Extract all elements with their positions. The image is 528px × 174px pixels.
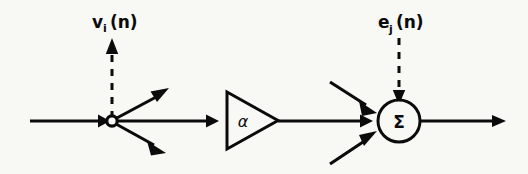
arrowhead-output-right <box>492 115 506 127</box>
edge-error-injection <box>393 38 405 105</box>
edge-sum-in-lower <box>330 131 377 164</box>
arrowhead-branch-right <box>206 115 219 128</box>
signal-flow-diagram: α Σ v i (n) e j (n) <box>0 0 528 174</box>
noise-label-base: v <box>92 12 103 32</box>
gain-amplifier-block[interactable] <box>227 92 278 149</box>
edge-sum-in-upper <box>330 82 377 116</box>
noise-label-argument: (n) <box>110 12 138 32</box>
edge-input-left <box>30 115 110 128</box>
edge-branch-right <box>116 115 219 128</box>
edge-output-right <box>420 115 506 127</box>
arrowhead-sum-in-upper <box>359 101 377 116</box>
error-label-argument: (n) <box>396 12 424 32</box>
error-label-base: e <box>378 12 390 32</box>
arrowhead-sum-in-middle <box>360 115 373 128</box>
edge-gain-output <box>278 115 373 128</box>
edge-noise-injection <box>106 38 118 118</box>
diagram-canvas: α Σ v i (n) e j (n) <box>0 0 528 174</box>
branch-point-node[interactable] <box>107 116 117 126</box>
gain-symbol-alpha: α <box>238 112 249 131</box>
label-noise-input: v i (n) <box>92 12 138 35</box>
edge-branch-down-right <box>116 124 166 156</box>
error-label-subscript: j <box>388 23 393 36</box>
noise-label-subscript: i <box>103 22 107 35</box>
edge-branch-up-right <box>115 88 169 119</box>
arrowhead-noise-injection <box>106 38 118 54</box>
label-error-input: e j (n) <box>378 12 424 36</box>
arrowhead-branch-down-right <box>147 141 166 156</box>
summing-symbol-sigma: Σ <box>393 112 405 132</box>
